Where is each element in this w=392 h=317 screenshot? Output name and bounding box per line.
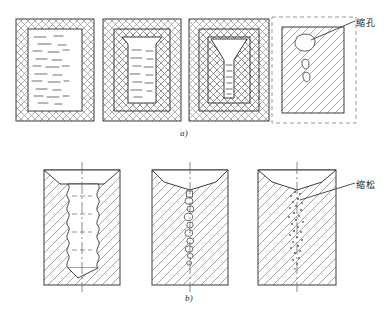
caption-part-a: a): [180, 128, 188, 138]
caption-part-b: b): [185, 293, 193, 303]
stage-b3-dispersed-porosity: [258, 162, 355, 292]
stage-a2-thin-shell: [103, 19, 181, 121]
stage-a4-casting-with-cavity: [272, 17, 356, 123]
casting-shrinkage-diagram: [0, 0, 392, 317]
stage-b2-void-chain: [152, 162, 228, 292]
label-shrinkage-porosity: 缩松: [356, 178, 375, 191]
label-shrinkage-cavity: 缩孔: [356, 16, 375, 29]
stage-a3-funnel: [189, 19, 269, 121]
stage-a1-full-liquid: [16, 19, 94, 121]
stage-b1-dendritic-column: [44, 162, 120, 292]
